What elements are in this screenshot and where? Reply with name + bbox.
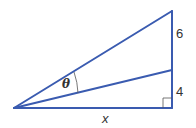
lower-segment-label: 4 <box>176 85 183 98</box>
right-angle-marker <box>163 98 172 108</box>
triangle-figure <box>0 0 196 128</box>
lower-hypotenuse <box>14 70 172 108</box>
upper-hypotenuse <box>14 11 172 108</box>
upper-segment-label: 6 <box>176 27 183 40</box>
angle-arc <box>74 72 78 93</box>
base-x-label: x <box>102 112 109 125</box>
triangle-diagram: θ 6 4 x <box>0 0 196 128</box>
angle-theta-label: θ <box>62 78 70 90</box>
